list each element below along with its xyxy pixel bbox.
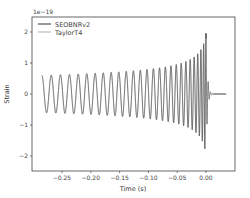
x-tick-label: −0.25 bbox=[53, 174, 72, 181]
legend: SEOBNRv2 TaylorT4 bbox=[38, 21, 90, 37]
x-tick-label: −0.10 bbox=[139, 174, 158, 181]
y-axis-label: Strain bbox=[3, 84, 11, 103]
x-axis-ticks: −0.25−0.20−0.15−0.10−0.050.00 bbox=[53, 171, 213, 181]
x-tick-label: 0.00 bbox=[199, 174, 213, 181]
series-line-taylort4 bbox=[42, 33, 206, 148]
y-axis-ticks: 210−1−2 bbox=[19, 28, 32, 159]
legend-label-seobnrv2: SEOBNRv2 bbox=[55, 21, 90, 29]
series-line-seobnrv2 bbox=[42, 33, 226, 149]
y-offset-label: 1e−19 bbox=[33, 8, 53, 15]
x-tick-label: −0.20 bbox=[82, 174, 101, 181]
y-tick-label: 2 bbox=[24, 28, 28, 35]
waveform-lines bbox=[42, 33, 226, 149]
x-tick-label: −0.05 bbox=[168, 174, 187, 181]
y-tick-label: −1 bbox=[19, 121, 28, 128]
strain-chart: 210−1−2 −0.25−0.20−0.15−0.10−0.050.00 1e… bbox=[0, 0, 250, 198]
y-tick-label: 1 bbox=[24, 59, 28, 66]
legend-label-taylort4: TaylorT4 bbox=[54, 29, 82, 37]
y-tick-label: 0 bbox=[24, 90, 28, 97]
x-axis-label: Time (s) bbox=[119, 185, 146, 193]
y-tick-label: −2 bbox=[19, 152, 28, 159]
x-tick-label: −0.15 bbox=[110, 174, 129, 181]
